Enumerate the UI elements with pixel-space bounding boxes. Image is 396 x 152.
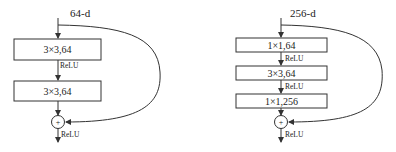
residual-blocks-diagram: 64-d 3×3,64 ReLU 3×3,64 + ReLU 256-d 1×1… xyxy=(0,0,396,152)
input-dim-label: 256-d xyxy=(290,7,316,19)
input-dim-label: 64-d xyxy=(70,7,91,19)
relu-label-out: ReLU xyxy=(61,130,80,139)
conv-layer-3: 1×1,256 xyxy=(236,94,327,108)
relu-label-2: ReLU xyxy=(285,82,304,91)
conv-layer-1-label: 1×1,64 xyxy=(267,40,295,51)
sum-node: + xyxy=(275,116,288,129)
sum-node: + xyxy=(52,116,65,129)
conv-layer-2: 3×3,64 xyxy=(14,81,101,101)
relu-label-1: ReLU xyxy=(60,61,79,70)
plus-icon: + xyxy=(279,118,284,127)
conv-layer-1: 3×3,64 xyxy=(14,39,101,60)
relu-label-out: ReLU xyxy=(285,130,304,139)
conv-layer-2-label: 3×3,64 xyxy=(267,68,295,79)
conv-layer-2: 3×3,64 xyxy=(236,66,327,80)
conv-layer-1-label: 3×3,64 xyxy=(43,44,71,55)
conv-layer-1: 1×1,64 xyxy=(236,38,327,52)
plus-icon: + xyxy=(56,118,61,127)
relu-label-1: ReLU xyxy=(285,54,304,63)
conv-layer-3-label: 1×1,256 xyxy=(265,96,298,107)
conv-layer-2-label: 3×3,64 xyxy=(43,86,71,97)
bottleneck-residual-block: 256-d 1×1,64 ReLU 3×3,64 ReLU 1×1,256 + … xyxy=(236,7,382,142)
basic-residual-block: 64-d 3×3,64 ReLU 3×3,64 + ReLU xyxy=(14,7,160,142)
